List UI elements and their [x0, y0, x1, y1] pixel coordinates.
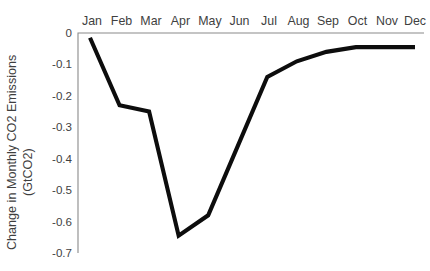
x-tick-label-oct: Oct	[348, 14, 368, 28]
y-tick-label-6: -0.6	[52, 215, 72, 228]
y-tick-label-3: -0.3	[52, 120, 72, 133]
y-tick-labels: 0 -0.1 -0.2 -0.3 -0.4 -0.5 -0.6 -0.7	[52, 26, 73, 259]
y-tick-label-7: -0.7	[52, 246, 72, 259]
y-tick-label-5: -0.5	[52, 183, 72, 196]
y-tick-label-0: 0	[66, 26, 72, 39]
x-tick-label-nov: Nov	[376, 14, 399, 28]
y-tick-label-1: -0.1	[52, 57, 72, 70]
x-tick-label-feb: Feb	[111, 14, 132, 28]
x-tick-label-sep: Sep	[317, 14, 339, 28]
data-series-line	[90, 38, 415, 236]
x-tick-label-aug: Aug	[287, 14, 309, 28]
x-tick-label-jul: Jul	[261, 14, 277, 28]
x-tick-label-jun: Jun	[230, 14, 250, 28]
chart-canvas: Change in Monthly CO2 Emissions (GtCO2) …	[0, 0, 430, 271]
y-axis-title-line-1: Change in Monthly CO2 Emissions	[5, 55, 19, 250]
y-axis-title: Change in Monthly CO2 Emissions (GtCO2)	[5, 55, 35, 250]
axis-spines	[78, 33, 424, 253]
x-tick-label-jan: Jan	[82, 14, 102, 28]
x-tick-label-dec: Dec	[404, 14, 426, 28]
y-axis-title-line-2: (GtCO2)	[21, 148, 35, 196]
x-tick-label-may: May	[198, 14, 222, 28]
y-tick-label-2: -0.2	[52, 89, 72, 102]
x-tick-labels: Jan Feb Mar Apr May Jun Jul Aug Sep Oct …	[82, 14, 426, 28]
x-tick-label-apr: Apr	[171, 14, 190, 28]
x-tick-label-mar: Mar	[140, 14, 161, 28]
co2-emissions-line-chart: Change in Monthly CO2 Emissions (GtCO2) …	[0, 0, 430, 271]
y-tick-label-4: -0.4	[52, 152, 73, 165]
